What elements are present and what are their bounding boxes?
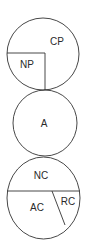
circle-bottom: NC AC RC — [7, 157, 80, 239]
label-rc: RC — [61, 196, 75, 207]
label-nc: NC — [34, 170, 48, 181]
label-ac: AC — [30, 202, 44, 213]
circle-middle: A — [13, 90, 77, 156]
label-cp: CP — [50, 36, 64, 47]
label-np: NP — [20, 59, 34, 70]
diagram-canvas: CP NP A NC AC RC — [0, 0, 92, 242]
label-a: A — [41, 118, 48, 129]
circle-top: CP NP — [7, 18, 79, 90]
